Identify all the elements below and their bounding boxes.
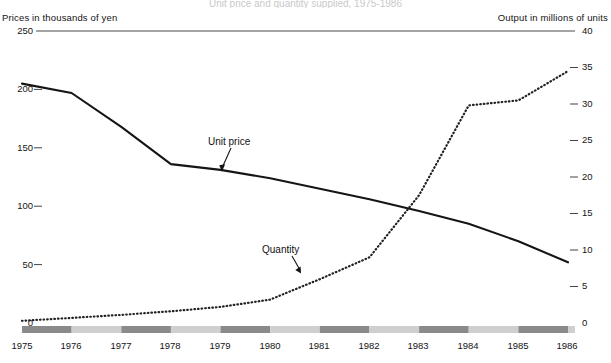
year-band-strip: [22, 326, 575, 333]
year-band-1975: [22, 326, 72, 333]
left-tick-marks: [34, 89, 42, 264]
chart-container: Unit price and quantity supplied, 1975-1…: [0, 0, 611, 363]
annotation-arrow-quantity: [292, 256, 301, 274]
year-band-1976: [72, 326, 122, 333]
year-band-1986: [568, 326, 575, 333]
year-band-1985: [518, 326, 568, 333]
right-tick-marks: [570, 68, 578, 287]
year-band-1981: [320, 326, 370, 333]
year-band-1979: [221, 326, 271, 333]
plot-area: [0, 0, 611, 363]
year-band-1984: [469, 326, 519, 333]
year-band-1978: [171, 326, 221, 333]
year-band-1982: [370, 326, 420, 333]
year-band-1977: [121, 326, 171, 333]
annotation-arrow-unit-price: [219, 148, 231, 172]
series-line-quantity: [22, 71, 568, 321]
year-band-1980: [270, 326, 320, 333]
series-line-unit-price: [22, 84, 568, 263]
year-band-1983: [419, 326, 469, 333]
